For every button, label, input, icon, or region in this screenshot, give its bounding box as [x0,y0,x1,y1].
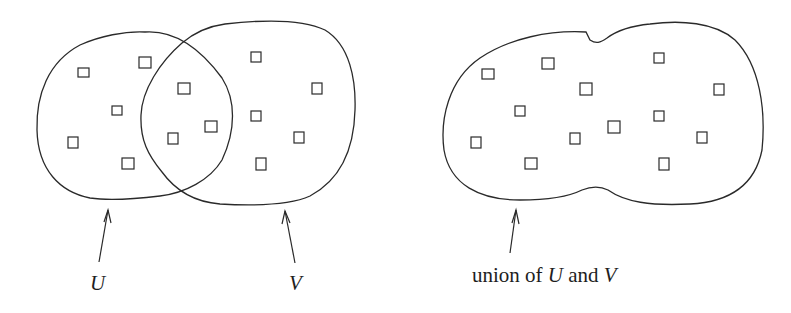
set-v-label: V [289,273,302,294]
element-square [608,121,620,133]
arrow-to-u [99,210,111,262]
element-square [168,133,178,144]
element-square [256,158,266,170]
union-caption: union of U and V [472,265,617,286]
set-u-label: U [90,273,105,294]
element-square [78,68,89,77]
element-square [205,121,217,132]
element-square [251,52,261,62]
element-square [312,83,322,94]
element-square [525,158,537,169]
venn-diagram-canvas [0,0,791,313]
element-square [112,106,122,115]
element-square [251,111,261,121]
arrow-to-union [510,210,519,253]
set-v-outline [141,21,355,205]
element-square [542,58,554,69]
element-square [714,84,724,95]
union-outline [443,22,763,204]
union-caption-set1: U [548,263,563,287]
element-square [654,53,664,63]
arrow-to-v [282,211,295,263]
set-u-outline [37,32,233,200]
element-square [178,83,190,94]
union-caption-set2: V [604,263,617,287]
element-square [570,133,580,144]
element-square [68,137,78,148]
element-square [654,111,664,121]
union-caption-and: and [568,263,598,287]
union-caption-prefix: union of [472,263,543,287]
element-square [122,158,134,169]
element-square [659,158,669,170]
element-square [471,137,481,148]
element-square [482,69,494,79]
element-square [580,83,592,95]
element-square [515,106,525,116]
element-square [697,132,707,143]
element-square [139,57,151,68]
element-square [294,132,304,143]
